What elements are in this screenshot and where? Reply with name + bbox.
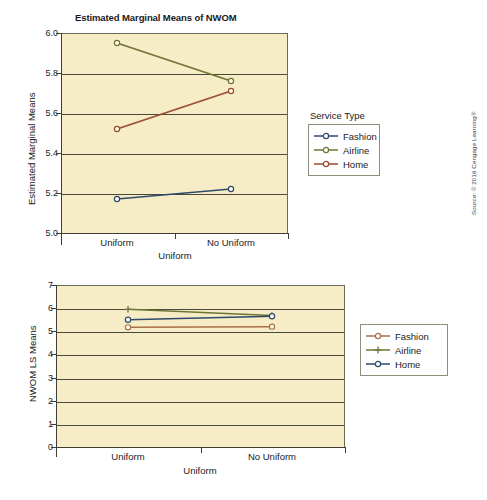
data-point-marker-circle (114, 40, 119, 45)
chart-estimated-marginal-means: Estimated Marginal Means of NWOM Estimat… (0, 0, 487, 262)
data-point-marker-circle (269, 314, 274, 319)
source-credit: Source: © 2016 Cengage Learning® (470, 112, 477, 215)
data-point-marker-circle (228, 186, 233, 191)
series-line-home (117, 91, 231, 129)
chart-nwom-ls-means: NWOM LS Means Uniform No Uniform Uniform… (0, 262, 487, 500)
data-point-marker-plus (125, 306, 131, 312)
data-point-marker-circle (125, 325, 130, 330)
series-line-fashion (117, 189, 231, 199)
data-point-marker-circle (269, 324, 274, 329)
series-line-airline (117, 43, 231, 81)
series-line-fashion (128, 327, 272, 328)
data-point-marker-circle (228, 88, 233, 93)
data-point-marker-circle (114, 196, 119, 201)
series-line-airline (128, 309, 272, 315)
data-point-marker-circle (228, 78, 233, 83)
series-layer (0, 262, 487, 500)
series-line-home (128, 316, 272, 319)
data-point-marker-circle (125, 317, 130, 322)
data-point-marker-circle (114, 126, 119, 131)
series-layer (0, 0, 487, 262)
